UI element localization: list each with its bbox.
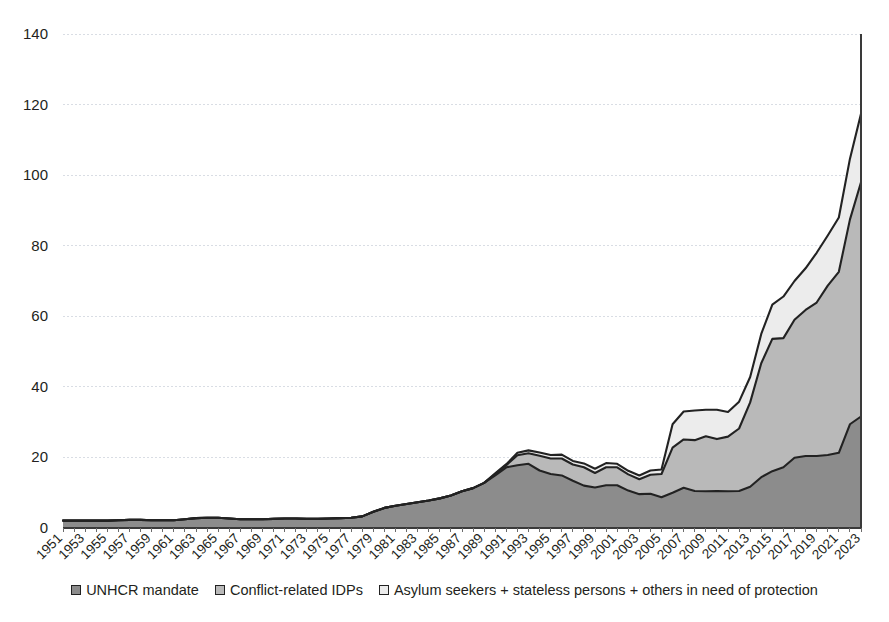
y-axis-tick-label: 0 bbox=[40, 519, 48, 536]
y-axis-tick-label: 20 bbox=[31, 448, 48, 465]
legend-item-label: Asylum seekers + stateless persons + oth… bbox=[394, 583, 818, 598]
y-axis-tick-label: 120 bbox=[23, 96, 48, 113]
chart-plot-area: 0204060801001201401951195319551957195919… bbox=[0, 0, 889, 622]
area-series-2 bbox=[63, 182, 861, 528]
legend-swatch-icon bbox=[215, 585, 225, 595]
y-axis-tick-label: 100 bbox=[23, 166, 48, 183]
legend-swatch-icon bbox=[71, 585, 81, 595]
y-axis-tick-label: 40 bbox=[31, 378, 48, 395]
y-axis-tick-label: 60 bbox=[31, 307, 48, 324]
stacked-area-chart: 0204060801001201401951195319551957195919… bbox=[0, 0, 889, 622]
y-axis-tick-label: 80 bbox=[31, 237, 48, 254]
y-axis-tick-label: 140 bbox=[23, 25, 48, 42]
legend-item[interactable]: UNHCR mandate bbox=[71, 583, 199, 598]
legend-item[interactable]: Asylum seekers + stateless persons + oth… bbox=[379, 583, 818, 598]
legend-item-label: Conflict-related IDPs bbox=[230, 583, 363, 598]
legend-item[interactable]: Conflict-related IDPs bbox=[215, 583, 363, 598]
x-axis-tick-label: 2023 bbox=[831, 531, 863, 563]
legend-item-label: UNHCR mandate bbox=[86, 583, 199, 598]
legend-swatch-icon bbox=[379, 585, 389, 595]
chart-legend: UNHCR mandateConflict-related IDPsAsylum… bbox=[0, 583, 889, 598]
